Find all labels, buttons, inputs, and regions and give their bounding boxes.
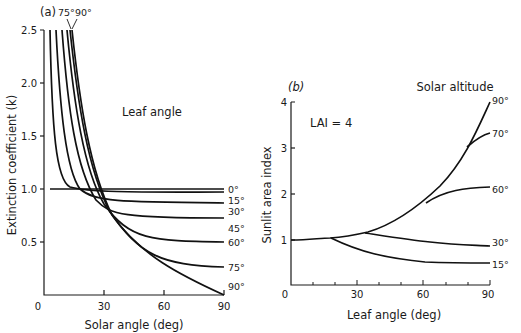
curve-30deg <box>365 233 490 246</box>
panel-b: 4 3 2 1 0 30 60 90 Leaf angle (deg) Sunl… <box>260 80 509 322</box>
x-tick-label: 30 <box>98 301 111 312</box>
y-tick-label: 1 <box>281 235 287 246</box>
y-axis-label: Extinction coefficient (k) <box>5 95 19 235</box>
series-label-30: 30° <box>228 206 245 217</box>
x-tick-label: 90 <box>218 301 231 312</box>
x-tick-label: 0 <box>35 301 41 312</box>
curve-90deg <box>72 30 224 295</box>
x-axis-label: Solar angle (deg) <box>84 318 183 332</box>
x-tick-label: 60 <box>417 289 430 300</box>
series-label-75: 75° <box>228 262 245 273</box>
series-label-0: 0° <box>228 184 239 195</box>
annotation-90: 90° <box>75 7 92 18</box>
series-label-70: 70° <box>492 128 509 139</box>
y-tick-label: 1.5 <box>21 131 37 142</box>
y-tick-label: 0.5 <box>21 237 37 248</box>
y-tick-label: 4 <box>281 97 287 108</box>
legend-title: Solar altitude <box>416 80 493 94</box>
curve-15deg <box>331 238 490 263</box>
x-ticks <box>313 280 490 285</box>
series-label-90: 90° <box>228 281 245 292</box>
series-label-15: 15° <box>492 259 509 270</box>
panel-a: 2.5 2.0 1.5 1.0 0.5 0 30 60 90 Solar ang… <box>5 5 245 332</box>
x-axis-label: Leaf angle (deg) <box>347 308 441 322</box>
x-tick-label: 0 <box>282 289 288 300</box>
series-label-30: 30° <box>492 237 509 248</box>
x-tick-label: 30 <box>351 289 364 300</box>
series-label-90: 90° <box>492 95 509 106</box>
annotation-75: 75° <box>58 7 75 18</box>
curve-60deg <box>67 30 224 242</box>
lai-annotation: LAI = 4 <box>310 116 352 130</box>
x-tick-label: 90 <box>482 289 495 300</box>
series-label-60: 60° <box>492 184 509 195</box>
annotation-pointer <box>67 19 77 29</box>
x-tick-label: 60 <box>158 301 171 312</box>
panel-a-axes <box>40 30 224 295</box>
panel-label: (b) <box>288 80 304 94</box>
panel-label: (a) <box>40 5 56 19</box>
y-tick-label: 2.0 <box>21 78 37 89</box>
curve-70deg <box>467 133 490 147</box>
y-tick-label: 1.0 <box>21 184 37 195</box>
series-label-15: 15° <box>228 195 245 206</box>
series-label-60: 60° <box>228 237 245 248</box>
y-tick-label: 2 <box>281 189 287 200</box>
y-tick-label: 2.5 <box>21 25 37 36</box>
legend-title: Leaf angle <box>122 105 182 119</box>
curve-75deg <box>70 30 224 267</box>
figure: 2.5 2.0 1.5 1.0 0.5 0 30 60 90 Solar ang… <box>0 0 521 333</box>
y-axis-label: Sunlit area index <box>260 146 274 243</box>
y-tick-label: 3 <box>281 143 287 154</box>
series-label-45: 45° <box>228 223 245 234</box>
